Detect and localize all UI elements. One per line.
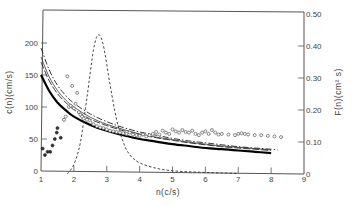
x-tick-label: 8 — [269, 175, 274, 184]
data-point — [138, 134, 141, 137]
data-point — [43, 154, 46, 157]
data-point — [161, 129, 164, 132]
data-point — [118, 131, 121, 134]
y-tick-label-right: 0.10 — [306, 138, 322, 147]
data-point — [201, 131, 204, 134]
data-point — [279, 136, 282, 139]
y-axis-label-right: F(n)(cm² s) — [333, 68, 343, 116]
y-tick-label-left: 100 — [25, 103, 39, 112]
x-tick-label: 7 — [236, 175, 241, 184]
x-axis-label: n(c/s) — [156, 187, 180, 197]
data-point — [247, 133, 250, 136]
data-point — [174, 130, 177, 133]
x-tick-label: 2 — [72, 175, 77, 184]
data-point — [204, 130, 207, 133]
data-point — [72, 107, 75, 110]
data-point — [63, 118, 66, 121]
data-point — [128, 131, 131, 134]
data-point — [164, 131, 167, 134]
y-tick-label-left: 50 — [29, 135, 38, 144]
data-point — [53, 138, 56, 141]
solid-thick-curve — [41, 75, 271, 153]
data-point — [74, 102, 77, 105]
axes: 12345678905010015020000.100.200.300.400.… — [25, 10, 322, 184]
data-point — [253, 134, 256, 137]
x-tick-label: 4 — [137, 175, 142, 184]
data-point — [210, 129, 213, 132]
data-point — [92, 123, 95, 126]
plot-area — [41, 35, 282, 174]
data-point — [86, 118, 89, 121]
filled-circle-series — [41, 127, 62, 157]
data-point — [56, 127, 59, 130]
data-point — [155, 130, 158, 133]
data-point — [243, 132, 246, 135]
data-point — [260, 134, 263, 137]
y-tick-label-left: 0 — [34, 167, 39, 176]
data-point — [135, 134, 138, 137]
data-point — [148, 134, 151, 137]
y-tick-label-right: 0.50 — [306, 10, 322, 19]
data-point — [112, 130, 115, 133]
data-point — [89, 121, 92, 124]
data-point — [59, 136, 62, 139]
chart: 12345678905010015020000.100.200.300.400.… — [0, 0, 352, 206]
data-point — [197, 134, 200, 137]
data-point — [55, 131, 58, 134]
open-circle-series — [63, 75, 283, 139]
x-tick-label: 3 — [105, 175, 110, 184]
y-tick-label-left: 150 — [25, 71, 39, 80]
data-point — [273, 135, 276, 138]
y-tick-label-right: 0.40 — [306, 42, 322, 51]
y-tick-label-right: 0 — [306, 170, 311, 179]
data-point — [237, 132, 240, 135]
data-point — [158, 133, 161, 136]
data-point — [181, 129, 184, 132]
y-axis-label-left: c(n)(cm/s) — [4, 70, 14, 113]
data-point — [168, 132, 171, 135]
data-point — [191, 129, 194, 132]
data-point — [109, 129, 112, 132]
data-point — [71, 84, 74, 87]
y-tick-label-right: 0.20 — [306, 106, 322, 115]
data-point — [141, 133, 144, 136]
data-point — [82, 117, 85, 120]
data-point — [41, 147, 44, 150]
data-point — [233, 134, 236, 137]
data-point — [240, 132, 243, 135]
data-point — [64, 115, 67, 118]
data-point — [207, 132, 210, 135]
data-point — [217, 133, 220, 136]
x-tick-label: 5 — [170, 175, 175, 184]
data-point — [69, 104, 72, 107]
y-tick-label-right: 0.30 — [306, 74, 322, 83]
data-point — [122, 132, 125, 135]
x-tick-label: 6 — [203, 175, 208, 184]
data-point — [220, 132, 223, 135]
x-tick-label: 1 — [39, 175, 44, 184]
data-point — [49, 150, 52, 153]
data-point — [66, 75, 69, 78]
data-point — [51, 144, 54, 147]
y-tick-label-left: 200 — [25, 39, 39, 48]
data-point — [227, 133, 230, 136]
short-dash-curve — [67, 35, 238, 174]
data-point — [145, 135, 148, 138]
data-point — [178, 131, 181, 134]
data-point — [105, 128, 108, 131]
data-point — [214, 131, 217, 134]
data-point — [194, 132, 197, 135]
data-point — [76, 91, 79, 94]
data-point — [187, 131, 190, 134]
data-point — [171, 128, 174, 131]
data-point — [102, 127, 105, 130]
data-point — [99, 126, 102, 129]
data-point — [115, 130, 118, 133]
data-point — [184, 130, 187, 133]
data-point — [151, 132, 154, 135]
data-point — [125, 132, 128, 135]
data-point — [266, 134, 269, 137]
data-point — [95, 125, 98, 128]
data-point — [132, 133, 135, 136]
